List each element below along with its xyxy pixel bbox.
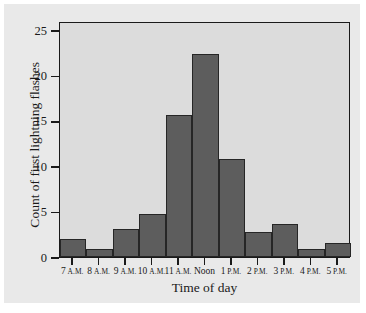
x-axis-tick-label: 2 P.M.: [247, 267, 268, 277]
x-axis-tick-label: 4 P.M.: [300, 267, 321, 277]
x-axis-tick-label: 5 P.M.: [326, 267, 347, 277]
x-axis-tick: [336, 258, 338, 265]
x-axis-tick: [283, 258, 285, 265]
x-axis-tick-label: 9 A.M.: [114, 267, 137, 277]
x-axis-tick: [310, 258, 312, 265]
x-axis-title: Time of day: [59, 281, 350, 295]
chart-figure: 05101520257 A.M.8 A.M.9 A.M.10 A.M.11 A.…: [0, 0, 366, 313]
x-axis-tick: [257, 258, 259, 265]
x-axis-tick: [98, 258, 100, 265]
y-axis-title: Count of first lightning flashes: [28, 27, 42, 263]
y-axis-tick: [51, 121, 59, 123]
x-axis-tick: [177, 258, 179, 265]
x-axis-tick-label: 7 A.M.: [61, 267, 84, 277]
x-axis-tick-label: 8 A.M.: [87, 267, 110, 277]
x-axis-tick: [71, 258, 73, 265]
axes-decorations: 05101520257 A.M.8 A.M.9 A.M.10 A.M.11 A.…: [0, 0, 366, 313]
x-axis-tick-label: 10 A.M.: [138, 267, 165, 277]
x-axis-tick-label: Noon: [194, 267, 215, 277]
y-axis-tick: [51, 257, 59, 259]
x-axis-tick-label: 11 A.M.: [164, 267, 191, 277]
x-axis-tick: [151, 258, 153, 265]
x-axis-tick-label: 3 P.M.: [274, 267, 295, 277]
y-axis-tick: [51, 76, 59, 78]
x-axis-tick: [124, 258, 126, 265]
y-axis-tick: [51, 166, 59, 168]
y-axis-tick: [51, 30, 59, 32]
y-axis-tick: [51, 212, 59, 214]
x-axis-tick: [230, 258, 232, 265]
x-axis-tick-label: 1 P.M.: [221, 267, 242, 277]
x-axis-tick: [204, 258, 206, 265]
